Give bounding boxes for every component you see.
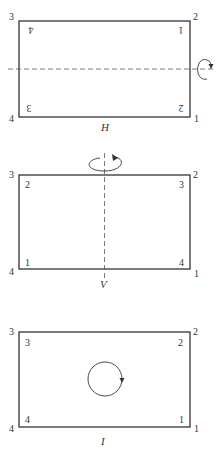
rectangle-i [19,332,190,427]
outer-label-bottom-right: 1 [194,113,199,124]
outer-label-top-left: 3 [9,326,14,337]
outer-label-bottom-right: 1 [194,268,199,279]
outer-label-top-right: 2 [193,169,198,180]
inner-label-bottom-right: 2 [179,103,184,114]
outer-label-top-right: 2 [193,326,198,337]
outer-label-top-left: 3 [9,11,14,22]
outer-label-top-right: 2 [193,11,198,22]
caption-i: I [100,435,106,447]
identity-circle-arrow-icon [88,362,125,396]
rotation-about-horizontal-axis-icon [198,60,214,80]
rotation-about-vertical-axis-icon [89,154,121,171]
inner-label-top-right: 2 [178,337,183,348]
outer-label-bottom-right: 1 [194,423,199,434]
inner-label-bottom-left: 4 [25,414,30,425]
panel-i: 3 2 4 1 3 2 4 1 I [9,326,199,447]
symmetry-diagram: 3 2 4 1 4 1 3 2 H 3 2 4 1 2 3 1 4 V 3 2 [0,0,222,461]
outer-label-bottom-left: 4 [9,113,14,124]
outer-label-bottom-left: 4 [9,423,14,434]
inner-label-top-right: 3 [179,179,184,190]
panel-h: 3 2 4 1 4 1 3 2 H [8,11,214,133]
inner-label-bottom-right: 4 [179,257,184,268]
caption-h: H [100,121,110,133]
inner-label-top-left: 3 [25,337,30,348]
inner-label-top-right: 1 [179,25,184,36]
inner-label-bottom-left: 3 [27,103,32,114]
inner-label-top-left: 4 [29,25,34,36]
panel-v: 3 2 4 1 2 3 1 4 V [9,153,199,290]
outer-label-bottom-left: 4 [9,266,14,277]
inner-label-bottom-right: 1 [179,414,184,425]
caption-v: V [100,278,108,290]
inner-label-top-left: 2 [25,179,30,190]
inner-label-bottom-left: 1 [25,257,30,268]
outer-label-top-left: 3 [9,169,14,180]
